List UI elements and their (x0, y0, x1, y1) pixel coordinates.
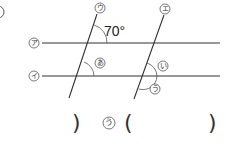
angle-a-arc (84, 62, 94, 76)
cutoff-circle-mark (0, 6, 4, 18)
angle-label-I: い (159, 60, 167, 72)
answer-blank-u[interactable] (138, 112, 206, 134)
angle-70-label: 70° (104, 23, 125, 39)
angle-label-A: あ (96, 57, 104, 69)
line-label-e: エ (161, 3, 169, 15)
answer-close-paren: ) (208, 110, 217, 136)
angle-label-U: う (151, 83, 159, 95)
angle-i-arc (147, 63, 157, 76)
line-label-a: ア (30, 37, 38, 49)
previous-answer-close-paren: ) (72, 110, 81, 136)
line-u (69, 14, 97, 98)
answer-open-paren: ( (124, 110, 133, 136)
line-label-u: ウ (96, 2, 104, 14)
answer-label: う (104, 117, 114, 129)
line-label-i: イ (30, 70, 38, 82)
